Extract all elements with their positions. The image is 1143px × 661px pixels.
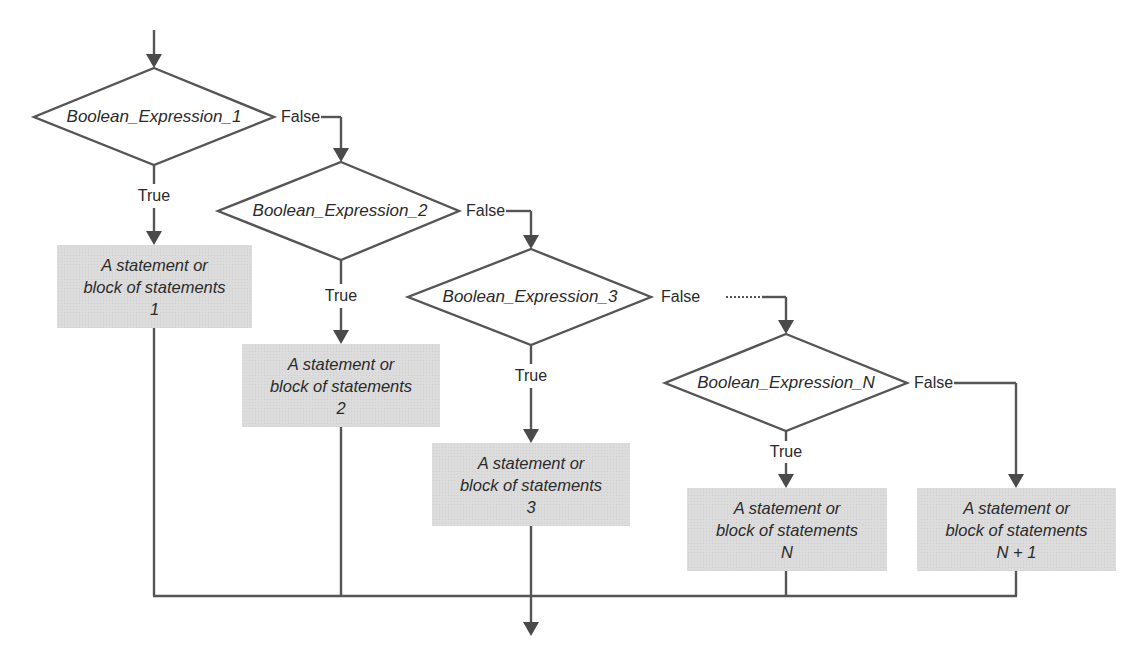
block-n-line2: block of statements xyxy=(716,519,858,541)
statement-block-n-plus-1: A statement or block of statements N + 1 xyxy=(917,488,1116,571)
block-n1-line3: N + 1 xyxy=(997,541,1037,563)
block-2-line3: 2 xyxy=(336,397,345,419)
block-2-line2: block of statements xyxy=(270,375,412,397)
block-1-line2: block of statements xyxy=(83,276,225,298)
decision-2-label: Boolean_Expression_2 xyxy=(253,201,428,221)
decision-3-false-label: False xyxy=(660,288,701,306)
decision-2-false-label: False xyxy=(465,202,506,220)
statement-block-3: A statement or block of statements 3 xyxy=(432,443,630,526)
decision-3-label: Boolean_Expression_3 xyxy=(443,287,618,307)
decision-1-false-label: False xyxy=(280,108,321,126)
block-3-line1: A statement or xyxy=(478,452,585,474)
block-2-line1: A statement or xyxy=(288,353,395,375)
statement-block-1: A statement or block of statements 1 xyxy=(57,245,252,328)
decision-2-true-label: True xyxy=(324,287,358,305)
block-n-line1: A statement or xyxy=(734,497,841,519)
block-n-line3: N xyxy=(781,541,793,563)
statement-block-2: A statement or block of statements 2 xyxy=(242,344,440,427)
block-n1-line2: block of statements xyxy=(945,519,1087,541)
decision-1-label: Boolean_Expression_1 xyxy=(67,107,242,127)
decision-3-true-label: True xyxy=(514,367,548,385)
block-3-line3: 3 xyxy=(526,496,535,518)
decision-1-true-label: True xyxy=(137,187,171,205)
block-3-line2: block of statements xyxy=(460,474,602,496)
decision-n-false-label: False xyxy=(913,374,954,392)
decision-n-label: Boolean_Expression_N xyxy=(697,373,875,393)
decision-n-true-label: True xyxy=(769,443,803,461)
statement-block-n: A statement or block of statements N xyxy=(687,488,887,571)
block-1-line1: A statement or xyxy=(101,254,208,276)
block-n1-line1: A statement or xyxy=(963,497,1070,519)
block-1-line3: 1 xyxy=(150,298,159,320)
